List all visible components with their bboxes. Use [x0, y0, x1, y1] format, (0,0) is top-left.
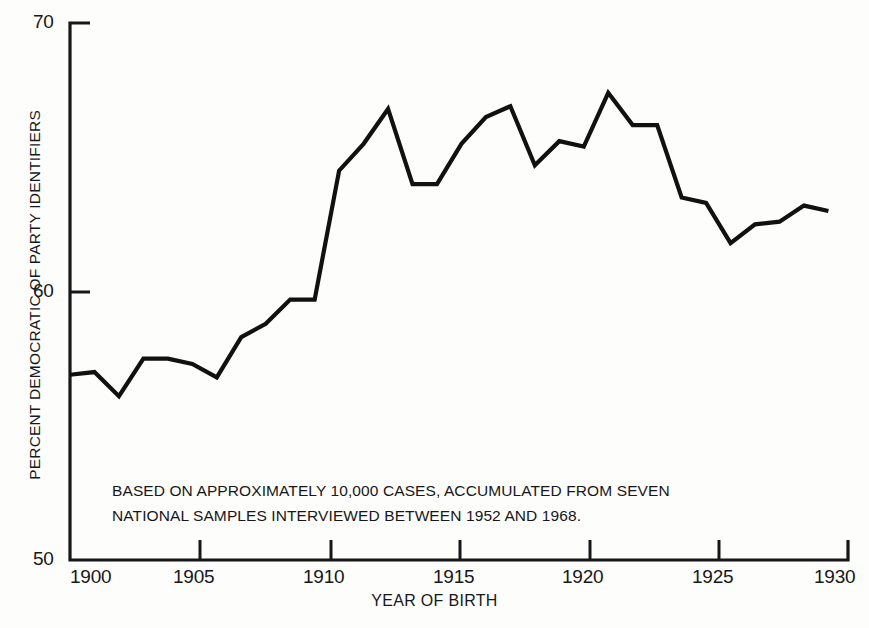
annotation-line-1: BASED ON APPROXIMATELY 10,000 CASES, ACC…	[112, 478, 670, 503]
chart-figure: 70 60 50 1900 1905 1910 1915 1920 1925 1…	[0, 0, 869, 628]
y-axis-title: PERCENT DEMOCRATIC OF PARTY IDENTIFIERS	[4, 110, 34, 510]
x-tick-label-1920: 1920	[562, 566, 603, 588]
x-tick-label-1905: 1905	[173, 566, 214, 588]
y-tick-label-50: 50	[33, 548, 54, 570]
x-tick-label-1925: 1925	[692, 566, 733, 588]
annotation-line-2: NATIONAL SAMPLES INTERVIEWED BETWEEN 195…	[112, 503, 670, 528]
x-axis-title: YEAR OF BIRTH	[0, 592, 869, 610]
y-tick-label-70: 70	[33, 11, 54, 33]
x-tick-label-1910: 1910	[303, 566, 344, 588]
x-axis-title-text: YEAR OF BIRTH	[371, 592, 497, 609]
y-axis-title-text: PERCENT DEMOCRATIC OF PARTY IDENTIFIERS	[26, 110, 44, 480]
data-series-line	[70, 93, 828, 396]
x-tick-label-1900: 1900	[70, 566, 111, 588]
chart-annotation: BASED ON APPROXIMATELY 10,000 CASES, ACC…	[112, 478, 670, 528]
line-chart-canvas	[0, 0, 869, 628]
x-tick-label-1915: 1915	[433, 566, 474, 588]
x-tick-label-1930: 1930	[814, 566, 855, 588]
